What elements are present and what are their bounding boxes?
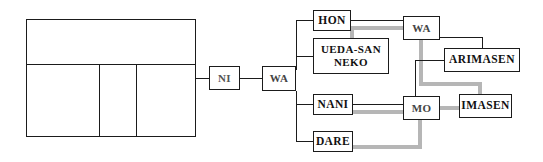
- table-col-divider-1: [99, 64, 100, 137]
- wire-wa1-to-nani: [296, 104, 313, 105]
- node-label-ni: NI: [218, 72, 231, 85]
- node-hon[interactable]: HON: [313, 10, 351, 31]
- node-label-arimasen: ARIMASEN: [449, 53, 515, 67]
- node-label-hon: HON: [318, 14, 345, 28]
- shadow-ueda-to-wa2: [350, 26, 411, 30]
- wire-wa1-to-ueda: [296, 56, 313, 57]
- node-ni[interactable]: NI: [209, 66, 240, 90]
- node-ueda-neko[interactable]: UEDA-SAN NEKO: [313, 38, 389, 74]
- wire-hon-to-wa2: [350, 20, 403, 21]
- shadow-wa2-down: [419, 40, 423, 82]
- diagram-canvas: KOKO SOKO ASOKO TSUKUE NO UE SHITA MAE U…: [0, 0, 543, 162]
- node-mo[interactable]: MO: [403, 96, 440, 120]
- node-label-dare: DARE: [316, 135, 350, 149]
- table-row-divider: [26, 64, 196, 65]
- node-wa-left[interactable]: WA: [262, 66, 296, 91]
- wire-wa1-spine-ueda: [296, 56, 297, 70]
- shadow-nani-to-mo: [352, 110, 405, 114]
- wire-wa1-to-hon: [296, 20, 313, 21]
- wire-mo-up-spine: [415, 60, 416, 96]
- node-label-wa-left: WA: [270, 72, 289, 85]
- node-label-neko: NEKO: [334, 56, 368, 69]
- wire-table-to-ni: [196, 78, 209, 79]
- shadow-mo-to-imasen: [440, 106, 460, 110]
- wire-wa1-spine-lower: [296, 91, 297, 141]
- node-nani[interactable]: NANI: [313, 94, 353, 115]
- node-label-mo: MO: [412, 102, 432, 115]
- node-wa-right[interactable]: WA: [403, 16, 440, 40]
- shadow-wa2-to-imasen: [419, 82, 482, 86]
- wire-wa2-right: [440, 37, 482, 38]
- wire-mo-to-arimasen: [415, 60, 444, 61]
- wire-nani-to-mo: [352, 104, 403, 105]
- node-label-wa-right: WA: [412, 22, 431, 35]
- node-arimasen[interactable]: ARIMASEN: [444, 48, 520, 72]
- shadow-dare-riser: [418, 120, 422, 145]
- node-label-ueda-san: UEDA-SAN: [321, 43, 381, 56]
- wire-wa1-to-dare: [296, 141, 313, 142]
- node-label-imasen: IMASEN: [461, 99, 509, 113]
- wire-wa2-down-to-arimasen: [482, 37, 483, 48]
- shadow-dare-run: [352, 145, 422, 149]
- table-col-divider-2: [136, 64, 137, 137]
- left-substitution-table: [26, 19, 196, 137]
- node-label-nani: NANI: [318, 98, 349, 112]
- node-dare[interactable]: DARE: [313, 131, 353, 152]
- node-imasen[interactable]: IMASEN: [459, 94, 512, 118]
